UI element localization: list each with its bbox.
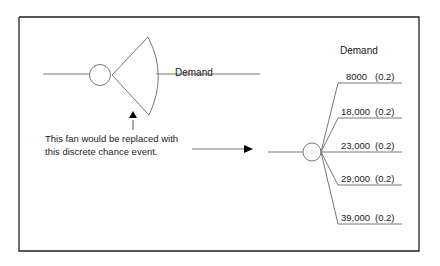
continuous-chance-node: Demand	[43, 37, 260, 115]
branch-1-value: 8000	[346, 71, 367, 82]
right-demand-header: Demand	[340, 45, 378, 56]
annotation-line-1: This fan would be replaced with	[45, 133, 178, 144]
fan-upper-line	[112, 37, 148, 75]
branch-5-prob: (0.2)	[375, 212, 395, 223]
annotation-line-2: this discrete chance event.	[45, 146, 157, 157]
branch-2-prob: (0.2)	[375, 106, 395, 117]
fan-arc	[148, 37, 158, 115]
branch-4-value: 29,000	[341, 173, 370, 184]
discrete-node-circle	[303, 143, 321, 161]
branch-2-value: 18,000	[341, 106, 370, 117]
up-arrow	[129, 111, 137, 130]
branch-3-value: 23,000	[341, 140, 370, 151]
left-demand-label: Demand	[175, 67, 213, 78]
diagram-canvas: Demand This fan would be replaced with t…	[0, 0, 440, 266]
branch-1-prob: (0.2)	[375, 71, 395, 82]
fan-lower-line	[112, 75, 149, 115]
right-arrow	[192, 145, 253, 153]
discrete-chance-node: Demand 8000 (0.2) 18,000 (0.2) 23,000 (0…	[268, 45, 402, 224]
arrow-head-right-icon	[244, 145, 253, 153]
arrow-head-up-icon	[129, 111, 137, 118]
branch-3-prob: (0.2)	[375, 140, 395, 151]
chance-node-circle	[90, 65, 111, 86]
branch-4-prob: (0.2)	[375, 173, 395, 184]
branch-5-value: 39,000	[341, 212, 370, 223]
